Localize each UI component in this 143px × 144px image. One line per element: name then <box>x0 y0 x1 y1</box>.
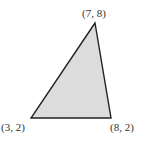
triangle-diagram: (7, 8) (3, 2) (8, 2) <box>0 0 143 144</box>
vertex-label-top: (7, 8) <box>82 7 106 20</box>
vertex-label-bottom-left: (3, 2) <box>1 121 25 134</box>
vertex-label-bottom-right: (8, 2) <box>110 121 134 134</box>
triangle-shape <box>31 23 111 118</box>
